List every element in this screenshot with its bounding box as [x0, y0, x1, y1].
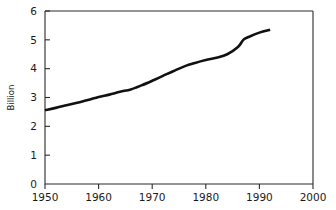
x-axis-label-1950: 1950	[32, 191, 59, 203]
y-axis-label-4: 4	[30, 62, 37, 74]
y-axis-title-text: Billion	[6, 85, 16, 111]
y-axis-label-3: 3	[30, 91, 37, 103]
y-axis-label-2: 2	[30, 120, 37, 132]
x-axis-tick-labels: 195019601970198019902000	[32, 191, 327, 203]
y-axis-label-6: 6	[30, 5, 37, 17]
x-axis-label-2000: 2000	[300, 191, 327, 203]
x-axis-label-1990: 1990	[246, 191, 273, 203]
chart-page: 195019601970198019902000 0123456 Billion	[0, 0, 336, 210]
x-axis-label-1980: 1980	[192, 191, 219, 203]
y-axis-label-1: 1	[30, 149, 37, 161]
x-axis-label-1970: 1970	[139, 191, 166, 203]
y-axis-label-5: 5	[30, 34, 37, 46]
y-axis-tick-labels: 0123456	[30, 5, 37, 190]
axis-spines	[45, 11, 313, 184]
y-axis-title: Billion	[6, 85, 16, 111]
chart-axes	[45, 11, 313, 184]
data-series-line	[45, 30, 270, 110]
series-path-0	[45, 30, 270, 110]
y-axis-label-0: 0	[30, 178, 37, 190]
population-line-chart: 195019601970198019902000 0123456 Billion	[0, 0, 336, 210]
x-axis-label-1960: 1960	[85, 191, 112, 203]
